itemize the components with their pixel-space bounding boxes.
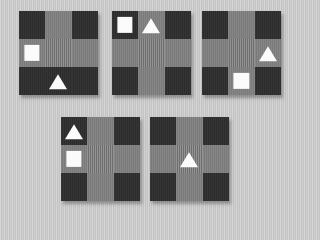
white-square-icon [118,17,133,33]
grid-cell[interactable] [138,39,164,67]
grid-cell[interactable] [165,11,191,39]
grid-cell[interactable] [203,117,229,145]
grid-cell[interactable] [114,117,140,145]
white-triangle-icon [180,152,198,167]
puzzle-scene [0,0,298,215]
grid-cell[interactable] [176,173,202,201]
grid-cell[interactable] [72,39,98,67]
grid-cell[interactable] [255,67,281,95]
grid-cell[interactable] [176,145,202,173]
grid-cell[interactable] [45,39,71,67]
grid-cell[interactable] [72,67,98,95]
grid-cell[interactable] [87,173,113,201]
grid-cell[interactable] [138,67,164,95]
grid-cell[interactable] [114,173,140,201]
grid-cell[interactable] [228,11,254,39]
grid-panel[interactable] [19,11,98,95]
grid-cell[interactable] [112,11,138,39]
white-square-icon [25,45,40,61]
grid-cell[interactable] [165,39,191,67]
white-triangle-icon [65,124,83,139]
grid-cell[interactable] [61,145,87,173]
grid-cell[interactable] [255,39,281,67]
grid-cell[interactable] [150,145,176,173]
grid-cell[interactable] [61,117,87,145]
grid-cell[interactable] [72,11,98,39]
grid-panel[interactable] [202,11,281,95]
grid-panel[interactable] [61,117,140,201]
white-triangle-icon [49,74,67,89]
grid-cell[interactable] [228,39,254,67]
grid-panel[interactable] [150,117,229,201]
white-triangle-icon [259,46,277,61]
white-square-icon [67,151,82,167]
grid-cell[interactable] [45,67,71,95]
grid-cell[interactable] [112,39,138,67]
grid-cell[interactable] [150,117,176,145]
grid-cell[interactable] [228,67,254,95]
grid-cell[interactable] [203,145,229,173]
grid-cell[interactable] [19,39,45,67]
grid-cell[interactable] [202,11,228,39]
grid-cell[interactable] [202,67,228,95]
grid-cell[interactable] [45,11,71,39]
grid-panel[interactable] [112,11,191,95]
grid-cell[interactable] [165,67,191,95]
grid-cell[interactable] [87,117,113,145]
white-square-icon [234,73,249,89]
grid-cell[interactable] [255,11,281,39]
grid-cell[interactable] [114,145,140,173]
grid-cell[interactable] [112,67,138,95]
grid-cell[interactable] [176,117,202,145]
white-triangle-icon [142,18,160,33]
grid-cell[interactable] [61,173,87,201]
grid-cell[interactable] [150,173,176,201]
grid-cell[interactable] [19,11,45,39]
grid-cell[interactable] [87,145,113,173]
grid-cell[interactable] [19,67,45,95]
grid-cell[interactable] [203,173,229,201]
grid-cell[interactable] [138,11,164,39]
grid-cell[interactable] [202,39,228,67]
